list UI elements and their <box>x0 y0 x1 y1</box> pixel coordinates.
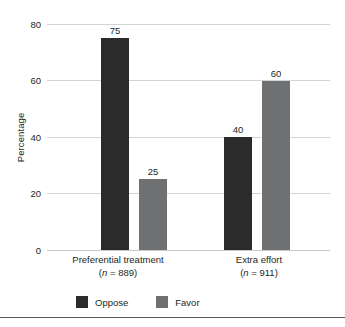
x-category-sub-preferential-treatment: (n = 889) <box>48 267 188 280</box>
bar-chart-figure: Percentage 80 60 40 20 0 75 25 40 <box>0 0 345 327</box>
chart-legend: Oppose Favor <box>76 296 200 308</box>
bar-value-preferential-oppose: 75 <box>110 25 121 36</box>
y-tick-label-40: 40 <box>30 132 41 143</box>
bar-extra-effort-favor: 60 <box>262 81 290 250</box>
x-category-name-extra-effort: Extra effort <box>236 254 282 265</box>
y-tick-label-0: 0 <box>36 245 41 256</box>
legend-swatch-favor-icon <box>156 296 168 308</box>
y-axis-title-label: Percentage <box>16 112 27 162</box>
y-tick-label-80: 80 <box>30 19 41 30</box>
legend-item-oppose: Oppose <box>76 296 128 308</box>
x-category-sub-extra-effort: (n = 911) <box>194 267 324 280</box>
gridline-0-baseline: 0 <box>47 250 330 251</box>
y-axis-title: Percentage <box>14 24 28 250</box>
legend-label-oppose: Oppose <box>95 297 128 308</box>
plot-area: 80 60 40 20 0 75 25 40 60 <box>47 24 330 250</box>
sub-suffix: = 911) <box>249 267 278 278</box>
x-category-label-preferential-treatment: Preferential treatment (n = 889) <box>48 254 188 279</box>
x-category-label-extra-effort: Extra effort (n = 911) <box>194 254 324 279</box>
y-tick-label-60: 60 <box>30 75 41 86</box>
sub-suffix: = 889) <box>107 267 137 278</box>
legend-label-favor: Favor <box>175 297 199 308</box>
bar-value-extra-effort-favor: 60 <box>271 68 282 79</box>
bar-value-preferential-favor: 25 <box>148 166 159 177</box>
bar-extra-effort-oppose: 40 <box>224 137 252 250</box>
legend-swatch-oppose-icon <box>76 296 88 308</box>
y-tick-label-20: 20 <box>30 188 41 199</box>
bottom-divider <box>0 317 345 318</box>
gridline-80: 80 <box>47 24 330 25</box>
x-category-name-preferential-treatment: Preferential treatment <box>72 254 163 265</box>
legend-item-favor: Favor <box>156 296 199 308</box>
bar-preferential-oppose: 75 <box>101 38 129 250</box>
bar-preferential-favor: 25 <box>139 179 167 250</box>
bar-value-extra-effort-oppose: 40 <box>233 124 244 135</box>
